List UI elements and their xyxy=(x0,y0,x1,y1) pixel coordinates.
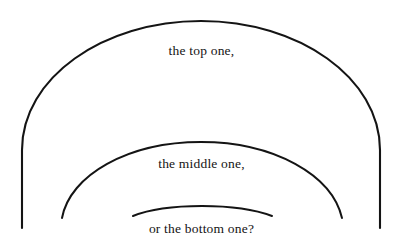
arcs-canvas xyxy=(0,0,403,242)
nested-arcs-figure: the top one, the middle one, or the bott… xyxy=(0,0,403,242)
inner-arc-label: or the bottom one? xyxy=(0,222,403,236)
outer-arc-label: the top one, xyxy=(0,44,403,58)
middle-arc-label: the middle one, xyxy=(0,157,403,171)
